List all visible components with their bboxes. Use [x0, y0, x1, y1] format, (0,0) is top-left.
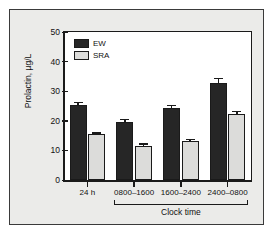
x-axis-tick-label: 24 h [80, 188, 96, 197]
error-bar-cap [139, 143, 148, 144]
x-axis-tick-mark [180, 181, 181, 187]
bars-layer [64, 32, 251, 180]
y-axis-tick: 40 [34, 57, 68, 67]
plot-right-rule [251, 31, 252, 181]
y-axis-tick-label: 20 [51, 116, 60, 126]
bar [210, 83, 227, 180]
clock-time-bracket [114, 200, 248, 205]
bar [70, 105, 87, 180]
y-axis-tick-label: 0 [55, 175, 60, 185]
bar [182, 141, 199, 180]
x-axis-tick-mark [133, 181, 134, 187]
x-axis-tick-label: 1600–2400 [161, 188, 201, 197]
error-bar-cap [186, 139, 195, 140]
x-axis-tick-mark [87, 181, 88, 187]
x-axis-title: Clock time [114, 207, 248, 217]
bar [88, 134, 105, 180]
y-axis-tick-label: 10 [51, 145, 60, 155]
y-axis-tick: 20 [34, 116, 68, 126]
x-axis-line [63, 180, 252, 182]
figure-panel: 01020304050 Prolactin, µg/L EW SRA 24 h0… [9, 9, 264, 225]
error-bar-cap [92, 132, 101, 133]
error-bar-cap [232, 111, 241, 112]
y-axis-tick: 30 [34, 86, 68, 96]
y-axis-tick: 50 [34, 27, 68, 37]
y-axis-tick: 0 [34, 175, 68, 185]
error-bar-cap [74, 102, 83, 103]
error-bar-cap [214, 78, 223, 79]
y-axis-title: Prolactin, µg/L [23, 27, 33, 135]
bar [228, 114, 245, 180]
x-axis-tick-label: 0800–1600 [114, 188, 154, 197]
bar [116, 122, 133, 180]
y-axis-tick: 10 [34, 145, 68, 155]
error-bar-cap [167, 105, 176, 106]
figure-root: 01020304050 Prolactin, µg/L EW SRA 24 h0… [0, 0, 279, 241]
bar [163, 108, 180, 180]
x-axis-tick-label: 2400–0800 [208, 188, 248, 197]
y-axis-tick-label: 30 [51, 86, 60, 96]
error-bar-cap [120, 119, 129, 120]
x-axis-tick-mark [227, 181, 228, 187]
y-axis-tick-label: 40 [51, 57, 60, 67]
y-axis-tick-label: 50 [51, 27, 60, 37]
bar [135, 146, 152, 180]
